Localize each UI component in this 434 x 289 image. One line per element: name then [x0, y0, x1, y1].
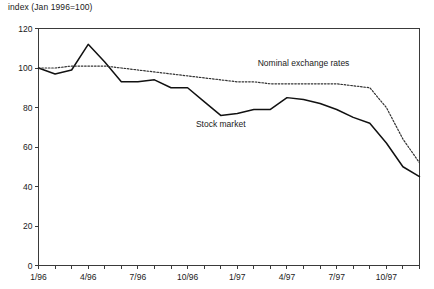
data-series-layer: [39, 44, 420, 176]
y-tick-label: 80: [23, 103, 33, 113]
x-tick-label: 7/96: [130, 272, 147, 282]
series-annotation-label: Nominal exchange rates: [258, 58, 350, 68]
x-tick-label: 10/97: [376, 272, 398, 282]
x-axis-tick-labels: 1/964/967/9610/961/974/977/9710/97: [30, 272, 397, 282]
y-axis-tick-marks: [35, 29, 39, 266]
y-tick-label: 100: [18, 63, 32, 73]
y-tick-label: 120: [18, 24, 32, 34]
plot-frame: [39, 29, 420, 266]
y-tick-label: 20: [23, 221, 33, 231]
x-tick-label: 7/97: [328, 272, 345, 282]
x-tick-label: 1/97: [229, 272, 246, 282]
series-annotation-label: Stock market: [196, 119, 246, 129]
x-axis-tick-marks: [39, 266, 420, 270]
x-tick-label: 1/96: [30, 272, 47, 282]
series-annotations: Nominal exchange ratesStock market: [196, 58, 349, 129]
x-tick-label: 10/96: [177, 272, 199, 282]
y-tick-label: 0: [28, 261, 33, 271]
x-tick-label: 4/96: [80, 272, 97, 282]
y-axis-tick-labels: 020406080100120: [18, 24, 32, 271]
line-chart-plot: 020406080100120 1/964/967/9610/961/974/9…: [0, 0, 434, 289]
series-line-stock-market: [39, 44, 420, 176]
chart-container: index (Jan 1996=100) 020406080100120 1/9…: [0, 0, 434, 289]
x-tick-label: 4/97: [279, 272, 296, 282]
y-tick-label: 60: [23, 142, 33, 152]
y-tick-label: 40: [23, 182, 33, 192]
